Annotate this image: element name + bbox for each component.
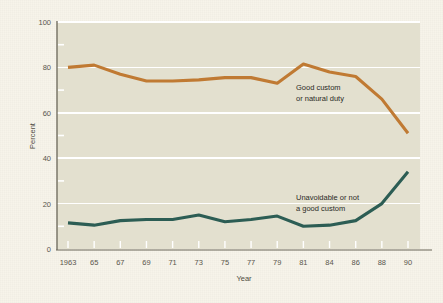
x-tick-label-77: 77: [247, 258, 255, 267]
y-tick-label-0: 0: [47, 245, 51, 254]
annotation-line-1: Good custom: [296, 83, 341, 92]
y-tick-label-40: 40: [43, 154, 51, 163]
chart-canvas: 020406080100 196365676971737577798184868…: [0, 0, 443, 303]
x-tick-label-1963: 1963: [60, 258, 77, 267]
x-tick-label-69: 69: [142, 258, 150, 267]
y-tick-label-80: 80: [43, 63, 51, 72]
x-tick-label-86: 86: [352, 258, 360, 267]
x-tick-label-65: 65: [90, 258, 98, 267]
y-axis-tick-labels: 020406080100: [38, 18, 51, 254]
x-tick-label-75: 75: [221, 258, 229, 267]
x-tick-label-67: 67: [116, 258, 124, 267]
x-axis-title: Year: [236, 274, 252, 283]
x-tick-label-84: 84: [325, 258, 333, 267]
y-tick-label-100: 100: [38, 18, 51, 27]
x-tick-label-90: 90: [404, 258, 412, 267]
y-tick-label-20: 20: [43, 200, 51, 209]
x-tick-label-79: 79: [273, 258, 281, 267]
line-chart: 020406080100 196365676971737577798184868…: [0, 0, 443, 303]
x-axis-tick-labels: 196365676971737577798184868890: [60, 258, 413, 267]
annotation-line-1: Unavoidable or not: [296, 193, 360, 202]
annotation-line-2: or natural duty: [296, 94, 344, 103]
annotation-line-2: a good custom: [296, 204, 345, 213]
x-tick-label-81: 81: [299, 258, 307, 267]
y-tick-label-60: 60: [43, 109, 51, 118]
y-axis-title: Percent: [28, 122, 37, 149]
x-tick-label-73: 73: [195, 258, 203, 267]
x-tick-label-88: 88: [378, 258, 386, 267]
x-tick-label-71: 71: [168, 258, 176, 267]
